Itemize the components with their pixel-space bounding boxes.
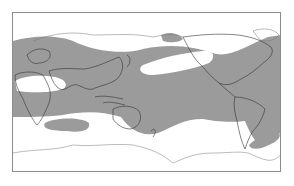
sahara-gap [15, 76, 66, 93]
map-svg [13, 13, 281, 172]
south-indian-ocean-blob [44, 119, 89, 132]
world-map [12, 12, 281, 172]
bering-shade [161, 33, 183, 42]
